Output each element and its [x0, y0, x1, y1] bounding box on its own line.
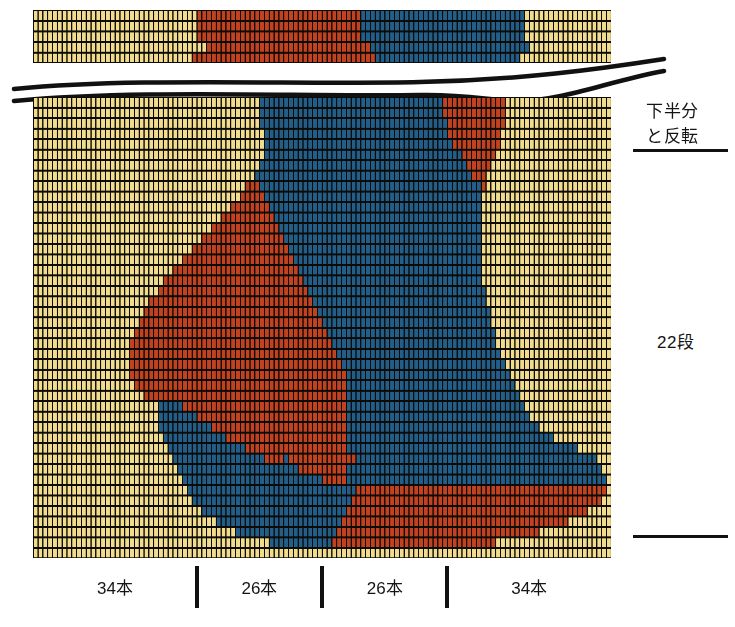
- bead-chart-main-grid: [33, 97, 611, 558]
- row-span-rule-top: [633, 149, 728, 152]
- bead-chart-top-strip: [33, 10, 611, 63]
- annotation-row-count: 22段: [657, 328, 694, 353]
- legend-segment-label-3: 26本: [322, 574, 447, 599]
- bottom-column-legend: 34本26本26本34本: [33, 562, 611, 624]
- bead-canvas-main: [33, 97, 611, 558]
- legend-segment-label-4: 34本: [447, 574, 611, 599]
- annotation-mirror-note-line1: 下半分: [646, 97, 699, 122]
- legend-segment-label-1: 34本: [33, 574, 197, 599]
- row-span-rule-bottom: [633, 535, 728, 538]
- annotation-mirror-note-line2: と反転: [646, 122, 699, 147]
- bead-canvas-top: [33, 10, 611, 63]
- legend-segment-label-2: 26本: [197, 574, 322, 599]
- break-line-upper: [14, 59, 664, 89]
